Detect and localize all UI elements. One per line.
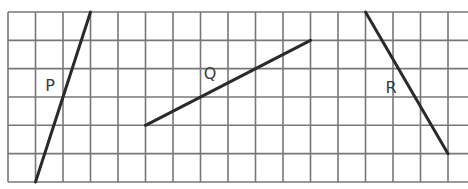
segment-r: [366, 12, 449, 154]
grid-lines: [8, 12, 468, 182]
grid-diagram: P Q R: [0, 0, 468, 189]
label-r: R: [385, 78, 396, 97]
label-q: Q: [204, 64, 217, 83]
label-p: P: [45, 76, 55, 95]
